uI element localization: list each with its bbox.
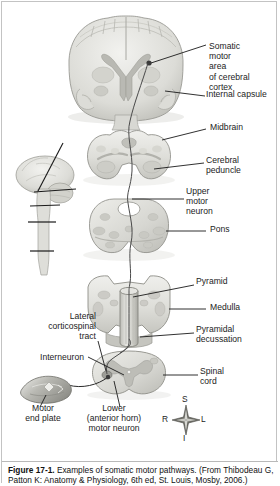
label-lower-motor-neuron: Lower (anterior horn) motor neuron bbox=[73, 403, 155, 434]
figure-caption: Figure 17-1. Examples of somatic motor p… bbox=[8, 465, 276, 485]
coronal-brain-section bbox=[68, 16, 184, 130]
spinal-cord-section bbox=[87, 351, 171, 400]
figure-caption-line1: Examples of somatic motor pathways. (Fro… bbox=[57, 465, 274, 475]
label-pons: Pons bbox=[210, 224, 230, 234]
label-midbrain: Midbrain bbox=[210, 122, 243, 132]
label-lateral-corticospinal-tract: Lateral corticospinal tract bbox=[6, 311, 96, 342]
compass-star-icon bbox=[172, 405, 200, 435]
label-interneuron: Interneuron bbox=[4, 352, 84, 362]
compass-label-left: L bbox=[201, 414, 206, 424]
figure-caption-line2: Patton K: Anatomy & Physiology, 6th ed, … bbox=[8, 475, 276, 485]
label-internal-capsule: Internal capsule bbox=[206, 89, 267, 99]
orientation-brain-inset bbox=[16, 143, 76, 275]
orientation-compass: S I R L bbox=[158, 396, 214, 446]
label-pyramidal-decussation: Pyramidal decussation bbox=[196, 324, 242, 344]
label-medulla: Medulla bbox=[210, 302, 240, 312]
compass-label-superior: S bbox=[182, 394, 188, 404]
label-somatic-motor-area: Somatic motor area of cerebral cortex bbox=[209, 41, 250, 92]
compass-label-right: R bbox=[162, 414, 168, 424]
label-motor-end-plate: Motor end plate bbox=[8, 403, 78, 423]
figure-number: Figure 17-1. bbox=[8, 465, 55, 475]
motor-end-plate-muscle bbox=[21, 376, 72, 403]
label-upper-motor-neuron: Upper motor neuron bbox=[186, 186, 213, 217]
figure-caption-block: Figure 17-1. Examples of somatic motor p… bbox=[2, 461, 278, 485]
figure-container: Somatic motor area of cerebral cortex In… bbox=[0, 0, 280, 486]
label-pyramid: Pyramid bbox=[196, 276, 228, 286]
compass-label-inferior: I bbox=[183, 433, 185, 443]
label-cerebral-peduncle: Cerebral peduncle bbox=[206, 155, 241, 175]
label-spinal-cord: Spinal cord bbox=[200, 366, 224, 386]
